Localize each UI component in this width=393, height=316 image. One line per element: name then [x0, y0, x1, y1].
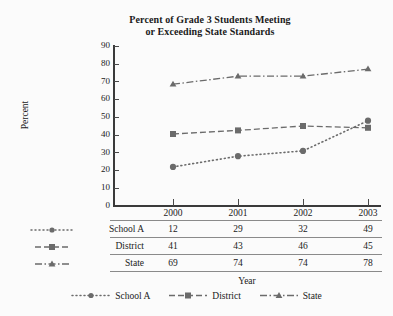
y-tick-90 — [114, 46, 119, 47]
table-cell: 32 — [281, 224, 325, 234]
table-cell: 74 — [216, 258, 260, 268]
table-row-label-school-a: School A — [74, 224, 144, 234]
y-tick-20 — [114, 170, 119, 171]
x-tick-label-2001: 2001 — [216, 208, 260, 218]
y-tick-label-30: 30 — [82, 148, 110, 157]
chart-figure: Percent of Grade 3 Students Meeting or E… — [0, 0, 393, 316]
y-tick-40 — [114, 135, 119, 136]
district-marker-2001 — [235, 127, 241, 133]
dashed-square-key-row — [30, 241, 74, 253]
x-tick-label-2002: 2002 — [281, 208, 325, 218]
x-tick-2002 — [303, 199, 304, 206]
y-tick-label-70: 70 — [82, 77, 110, 86]
y-tick-label-10: 10 — [82, 183, 110, 192]
district-marker-2000 — [170, 131, 176, 137]
y-tick-60 — [114, 99, 119, 100]
x-tick-label-2003: 2003 — [346, 208, 390, 218]
table-cell: 29 — [216, 224, 260, 234]
y-axis-label: Percent — [20, 80, 30, 150]
table-rule-1 — [110, 237, 382, 238]
table-cell: 12 — [151, 224, 195, 234]
legend-item-state: State — [259, 290, 322, 301]
x-axis-label: Year — [113, 276, 381, 286]
y-axis-spine — [113, 45, 115, 206]
table-row-label-district: District — [74, 241, 144, 251]
y-tick-label-90: 90 — [82, 41, 110, 50]
table-cell: 78 — [346, 258, 390, 268]
y-tick-50 — [114, 117, 119, 118]
table-cell: 43 — [216, 241, 260, 251]
table-cell: 74 — [281, 258, 325, 268]
y-tick-10 — [114, 188, 119, 189]
table-cell: 46 — [281, 241, 325, 251]
school-a-line — [173, 121, 368, 167]
state-marker-2000 — [170, 81, 177, 87]
table-row-label-state: State — [74, 258, 144, 268]
school-a-marker-2002 — [300, 148, 306, 154]
chart-legend: School A District State — [0, 290, 393, 301]
x-axis-spine — [113, 205, 381, 207]
district-marker-2002 — [300, 123, 306, 129]
x-tick-2000 — [173, 199, 174, 206]
district-marker-2003 — [365, 125, 371, 131]
x-tick-2003 — [368, 199, 369, 206]
series-state — [170, 66, 372, 87]
y-tick-label-60: 60 — [82, 94, 110, 103]
y-tick-label-40: 40 — [82, 130, 110, 139]
table-cell: 41 — [151, 241, 195, 251]
dotted-circle-key — [71, 290, 111, 301]
table-cell: 69 — [151, 258, 195, 268]
state-marker-2001 — [235, 73, 242, 79]
dotted-circle-key-row — [30, 224, 74, 236]
y-tick-label-50: 50 — [82, 112, 110, 121]
x-tick-2001 — [238, 199, 239, 206]
y-tick-label-0: 0 — [82, 201, 110, 210]
table-rule-bottom — [110, 271, 382, 272]
series-district — [170, 123, 371, 137]
legend-label-state: State — [303, 291, 322, 301]
series-school-a — [170, 118, 371, 170]
y-tick-30 — [114, 152, 119, 153]
table-rule-top — [110, 220, 382, 221]
school-a-marker-2001 — [235, 153, 241, 159]
y-tick-70 — [114, 81, 119, 82]
dashed-square-key — [168, 290, 208, 301]
dashdot-triangle-key — [259, 290, 299, 301]
dashdot-triangle-key-row — [30, 258, 74, 270]
school-a-marker-2003 — [365, 118, 371, 124]
state-marker-2003 — [365, 66, 372, 72]
legend-item-district: District — [168, 290, 241, 301]
x-tick-label-2000: 2000 — [151, 208, 195, 218]
state-line — [173, 69, 368, 84]
school-a-marker-2000 — [170, 164, 176, 170]
legend-label-district: District — [212, 291, 241, 301]
district-line — [173, 126, 368, 134]
table-cell: 45 — [346, 241, 390, 251]
y-tick-label-80: 80 — [82, 59, 110, 68]
legend-label-school-a: School A — [115, 291, 150, 301]
y-tick-label-20: 20 — [82, 165, 110, 174]
state-marker-2002 — [300, 73, 307, 79]
legend-item-school-a: School A — [71, 290, 150, 301]
table-cell: 49 — [346, 224, 390, 234]
table-rule-2 — [110, 254, 382, 255]
y-tick-80 — [114, 64, 119, 65]
